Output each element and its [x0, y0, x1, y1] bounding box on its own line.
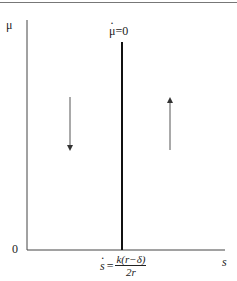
- steady-state-label: s = k(r−δ) 2r: [100, 254, 146, 278]
- isocline-label: μ=0: [109, 25, 128, 37]
- isocline-label-rest: =0: [115, 24, 128, 38]
- steady-state-fraction: k(r−δ) 2r: [115, 254, 146, 278]
- phase-diagram: [0, 0, 237, 281]
- arrow-down-icon: [67, 97, 73, 151]
- y-axis-label: μ: [6, 19, 12, 31]
- mu-dot-symbol: μ: [109, 25, 115, 37]
- steady-state-lhs: s: [100, 259, 105, 274]
- fraction-numerator: k(r−δ): [115, 254, 146, 266]
- steady-state-eq: =: [107, 259, 114, 274]
- x-axis-label: s: [222, 256, 227, 268]
- arrow-up-icon: [167, 97, 173, 150]
- fraction-denominator: 2r: [126, 266, 136, 278]
- origin-label: 0: [12, 243, 18, 255]
